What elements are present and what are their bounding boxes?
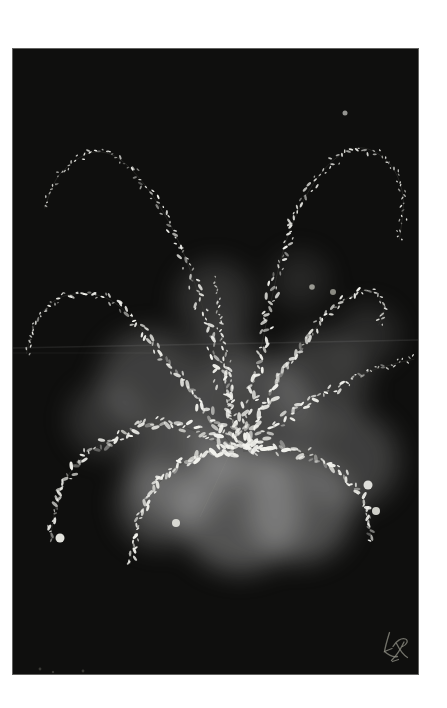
artwork-canvas — [13, 49, 418, 674]
fireworks-artwork — [13, 49, 418, 674]
artist-signature — [385, 633, 408, 662]
